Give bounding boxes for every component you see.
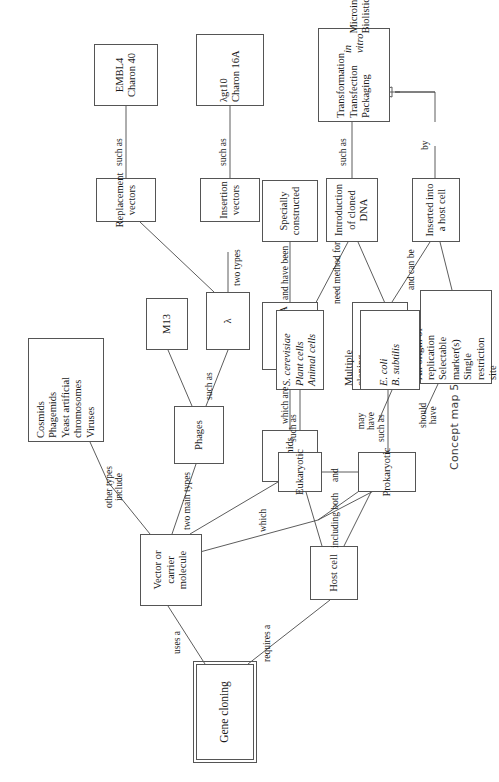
link-label-and-have-been: and have been (280, 246, 290, 300)
link-label-requires-a: requires a (262, 625, 272, 662)
link-label-two-main-types: two main types (182, 472, 192, 530)
link-label-such-as-eukaryotic: such as (288, 414, 298, 442)
node-other-types[interactable]: Cosmids Phagemids Yeast artificial chrom… (28, 338, 104, 442)
node-insertion-vectors[interactable]: Insertion vectors (200, 178, 260, 222)
node-introduction-of-cloned-dna[interactable]: Introduction of cloned DNA (326, 178, 378, 242)
node-prokaryotic-examples[interactable]: E. coli B. subtilis (360, 310, 420, 390)
link-label-and: and (330, 468, 340, 482)
link-label-two-types: two types (232, 249, 242, 286)
link-label-and-can-be: and can be (406, 249, 416, 290)
node-specially-constructed[interactable]: Specially constructed (262, 180, 318, 242)
link-label-may-have: may have (356, 412, 377, 430)
figure-caption: Concept map 5 (448, 383, 461, 470)
node-inserted-into-host-cell[interactable]: Inserted into a host cell (412, 178, 460, 242)
link-label-other-types-include: other types include (104, 466, 125, 508)
node-vector-or-carrier-molecule[interactable]: Vector or carrier molecule (140, 534, 202, 606)
link-label-which: which (258, 509, 268, 532)
link-label-such-as-insertion: such as (218, 138, 228, 166)
node-eukaryotic-examples[interactable]: S. cerevisiae Plant cells Animal cells (276, 310, 324, 390)
link-label-such-as-prokaryotic: such as (376, 414, 386, 442)
link-label-need-method-for: need method for (332, 242, 342, 304)
node-phages[interactable]: Phages (174, 406, 224, 464)
node-introduction-methods[interactable]: Transformation Transfection Packaging in… (318, 28, 390, 122)
link-label-including-both: including both (330, 493, 340, 548)
link-label-should-have: should have (418, 403, 439, 428)
node-m13[interactable]: M13 (146, 298, 188, 350)
node-gene-cloning[interactable]: Gene cloning (196, 664, 254, 760)
link-label-uses-a: uses a (172, 631, 182, 654)
node-prokaryotic[interactable]: Prokaryotic (358, 452, 416, 492)
node-eukaryotic[interactable]: Eukaryotic (278, 452, 322, 492)
link-label-such-as-phages: such as (204, 372, 214, 400)
link-label-such-as-methods: such as (338, 138, 348, 166)
node-lambda[interactable]: λ (206, 292, 250, 350)
link-label-by: by (420, 141, 430, 151)
node-should-have-features[interactable]: An origin of replication Selectable mark… (420, 290, 492, 384)
link-label-such-as-replacement: such as (114, 138, 124, 166)
node-host-cell[interactable]: Host cell (310, 546, 358, 600)
node-insertion-vector-examples[interactable]: λgt10 Charon 16A (196, 34, 264, 106)
node-replacement-vectors[interactable]: Replacement vectors (96, 178, 156, 222)
node-replacement-vector-examples[interactable]: EMBL4 Charon 40 (94, 44, 158, 106)
